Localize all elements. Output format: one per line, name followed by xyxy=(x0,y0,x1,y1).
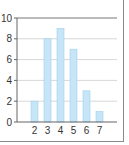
bar-3 xyxy=(44,39,51,122)
x-tick-label: 5 xyxy=(71,125,77,136)
y-tick-label: 8 xyxy=(6,33,12,44)
bar-chart: 0246810 234567 xyxy=(0,0,129,145)
x-tick-label: 2 xyxy=(32,125,38,136)
x-tick-label: 6 xyxy=(84,125,90,136)
bar-5 xyxy=(70,49,77,122)
gridlines xyxy=(17,18,117,101)
x-tick-label: 7 xyxy=(97,125,103,136)
y-tick-label: 2 xyxy=(6,96,12,107)
x-tick-label: 4 xyxy=(58,125,64,136)
x-tick-label: 3 xyxy=(45,125,51,136)
bar-7 xyxy=(96,112,103,122)
x-tick-labels: 234567 xyxy=(32,125,103,136)
y-tick-labels: 0246810 xyxy=(1,13,13,128)
axes xyxy=(14,18,117,122)
y-tick-label: 0 xyxy=(6,117,12,128)
y-tick-label: 6 xyxy=(6,54,12,65)
bar-4 xyxy=(57,28,64,122)
bar-2 xyxy=(31,101,38,122)
y-tick-label: 4 xyxy=(6,75,12,86)
bars xyxy=(31,28,103,122)
y-tick-label: 10 xyxy=(1,13,13,24)
bar-6 xyxy=(83,91,90,122)
